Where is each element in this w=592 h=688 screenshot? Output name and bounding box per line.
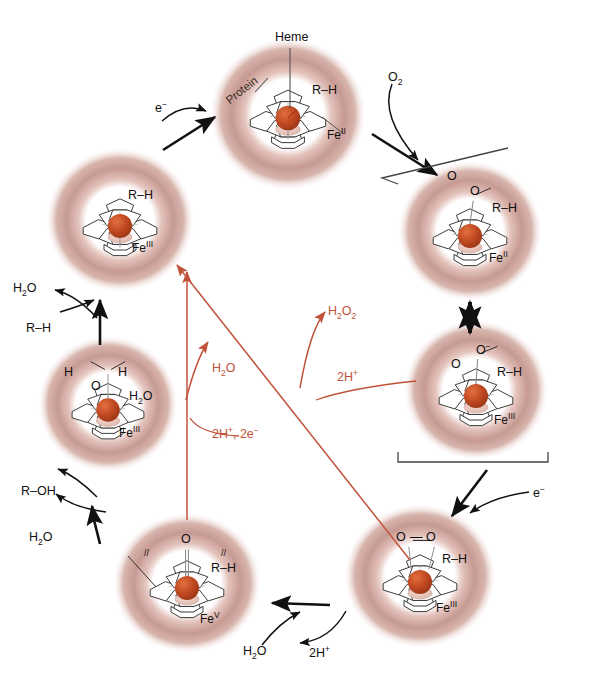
complex-top-iron: FeII [327,127,346,141]
product-out-label: R–OH [21,485,56,498]
complex-lower-right-o2: O [426,531,436,544]
complex-lower-left-oxo: O [181,533,191,546]
heme-callout-label: Heme [275,31,308,44]
water-out-bottom-label: H2O [243,645,267,660]
iron-symbol: Fe [494,413,508,427]
complex-upper-right-iron: FeII [489,250,508,264]
complex-right-o2: O− [476,342,491,357]
complex-top-substrate: R–H [312,84,337,97]
iron-oxidation: III [508,411,515,421]
iron-oxidation: III [146,239,153,249]
complex-left-water-h2: H [118,366,127,379]
iron-symbol: Fe [436,601,450,615]
complex-right-substrate: R–H [497,366,522,379]
uncoupling-water-label: H2O [212,362,236,377]
iron-symbol: Fe [119,426,133,440]
iron-oxidation: III [133,424,140,434]
porphyrin-radical-mark-left: // [144,549,149,558]
complex-right-o1: O [451,358,461,371]
subscript: 2 [138,396,143,406]
diagram-canvas [0,0,592,688]
complex-upper-right-substrate: R–H [492,202,517,215]
protons-bottom-label: 2H+ [309,645,330,660]
dioxygen-label: O2 [388,71,402,86]
electron-in-top-label: e− [155,100,167,115]
complex-lower-right-substrate: R–H [442,553,467,566]
complex-left-water-o: O [91,380,101,393]
protons-peroxide-label: 2H+ [337,369,358,384]
substrate-in-label: R–H [26,322,51,335]
water-in-label: H2O [29,531,53,546]
protons-electrons-label: 2H+, 2e− [212,426,259,441]
complex-upper-right-o2: O [470,185,480,198]
iron-symbol: Fe [327,128,341,142]
complex-lower-left-substrate: R–H [211,562,236,575]
complex-left-water-label: H2O [129,390,153,405]
complex-upper-right-o1: O [447,170,457,183]
iron-oxidation: V [214,610,220,620]
complex-lower-right-iron: FeIII [436,600,457,614]
p450-cycle-diagram: Heme Protein R–H FeII R–H FeIII O O R–H … [0,0,592,688]
electron-in-right-label: e− [533,485,545,500]
iron-oxidation: II [341,126,346,136]
porphyrin-radical-mark-right: // [221,549,226,558]
complex-upper-left-iron: FeIII [132,240,153,254]
complex-upper-left-substrate: R–H [128,189,153,202]
iron-oxidation: III [450,599,457,609]
complex-lower-right-o1: O [396,531,406,544]
iron-oxidation: II [503,249,508,259]
iron-symbol: Fe [132,241,146,255]
complex-right-iron: FeIII [494,412,515,426]
iron-symbol: Fe [200,612,214,626]
complex-lower-right-obond: — [410,531,423,544]
iron-symbol: Fe [489,251,503,265]
complex-left-iron: FeIII [119,425,140,439]
complex-left-water-h1: H [64,366,73,379]
complex-lower-left-iron: FeV [200,611,220,625]
water-out-top-label: H2O [13,282,37,297]
peroxide-label: H2O2 [328,305,356,320]
